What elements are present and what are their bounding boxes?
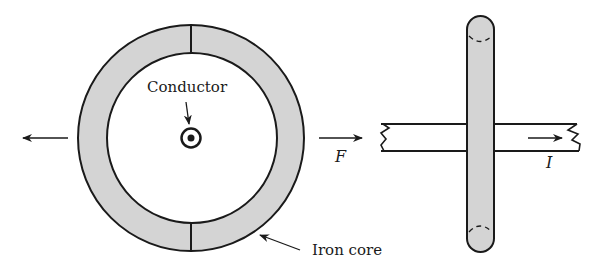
iron-core-label-group: Iron core [260, 235, 382, 259]
conductor-pointer-arrow [186, 102, 189, 124]
conductor-symbol [182, 129, 201, 148]
conductor-label: Conductor [147, 78, 228, 96]
force-label: F [334, 147, 347, 166]
conductor-label-group: Conductor [147, 78, 228, 124]
iron-core-label: Iron core [312, 241, 382, 259]
force-arrow-F: F [319, 138, 362, 166]
diagram-canvas: Conductor Iron core F I [0, 0, 600, 270]
iron-core-side-view [467, 16, 494, 252]
iron-core-pointer-arrow [260, 235, 300, 250]
current-label: I [545, 153, 553, 172]
